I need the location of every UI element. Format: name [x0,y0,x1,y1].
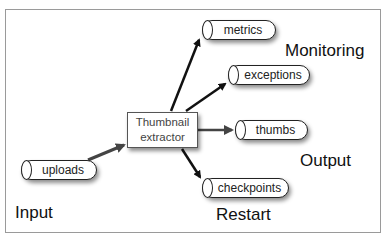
processor-label-line2: extractor [128,130,197,145]
cylinder-cap-icon [235,120,246,140]
processor-label-line1: Thumbnail [128,115,197,130]
cylinder-cap-icon [228,65,239,85]
queue-thumbs: thumbs [235,120,308,140]
cylinder-cap-icon [202,20,213,40]
arrow-extractor-to-checkpoints [182,149,200,177]
zone-label-monitoring: Monitoring [285,41,364,61]
queue-label: uploads [34,161,92,179]
queue-label: checkpoints [215,179,284,197]
queue-label: exceptions [241,66,305,84]
queue-uploads: uploads [21,160,97,180]
zone-label-output: Output [300,151,351,171]
zone-label-restart: Restart [216,205,271,225]
queue-label: metrics [215,21,271,39]
arrow-uploads-to-extractor [88,145,124,160]
queue-exceptions: exceptions [228,65,310,85]
thumbnail-extractor-box: Thumbnail extractor [127,112,198,148]
queue-label: thumbs [248,121,303,139]
zone-label-input: Input [15,203,53,223]
queue-checkpoints: checkpoints [202,178,289,198]
arrow-extractor-to-metrics [171,40,199,111]
queue-metrics: metrics [202,20,276,40]
arrow-extractor-to-exceptions [186,84,225,111]
cylinder-cap-icon [21,160,32,180]
cylinder-cap-icon [202,178,213,198]
